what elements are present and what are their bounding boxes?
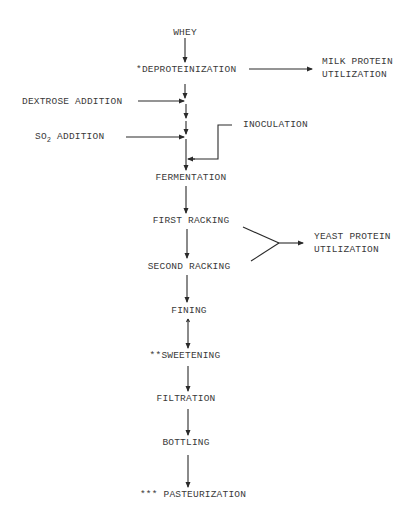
input-dextrose-addition: DEXTROSE ADDITION — [22, 96, 122, 107]
branch-first-racking — [243, 227, 279, 243]
step-pasteurization: *** PASTEURIZATION — [140, 489, 246, 500]
step-bottling: BOTTLING — [162, 437, 209, 448]
so2-prefix: SO — [35, 131, 47, 142]
branch-second-racking — [251, 243, 279, 261]
step-whey: WHEY — [173, 27, 197, 38]
input-inoculation: INOCULATION — [243, 119, 308, 130]
output-yeast-protein-line2: UTILIZATION — [314, 244, 379, 255]
step-fermentation: FERMENTATION — [156, 172, 227, 183]
step-filtration: FILTRATION — [156, 393, 215, 404]
process-flow-diagram: WHEY *DEPROTEINIZATION FERMENTATION FIRS… — [0, 0, 413, 524]
output-milk-protein-line2: UTILIZATION — [322, 69, 387, 80]
input-so2-addition: SO2 ADDITION — [35, 131, 104, 146]
output-yeast-protein-line1: YEAST PROTEIN — [314, 231, 391, 242]
step-sweetening: **SWEETENING — [150, 350, 221, 361]
step-second-racking: SECOND RACKING — [148, 261, 231, 272]
so2-suffix: ADDITION — [51, 131, 104, 142]
output-milk-protein-line1: MILK PROTEIN — [322, 56, 393, 67]
inoculation-connector — [189, 125, 232, 159]
step-first-racking: FIRST RACKING — [153, 215, 230, 226]
step-deproteinization: *DEPROTEINIZATION — [136, 64, 236, 75]
step-fining: FINING — [171, 305, 206, 316]
